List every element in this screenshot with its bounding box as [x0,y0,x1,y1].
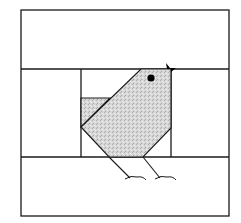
bird-eye-icon [147,74,154,81]
quilt-block-diagram [0,0,241,223]
quilt-block-svg [0,0,241,223]
